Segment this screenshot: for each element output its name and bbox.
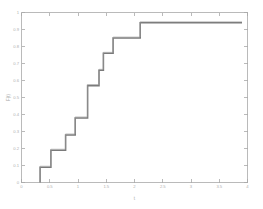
x-tick-label: 1.5 xyxy=(103,184,109,189)
x-tick-label: 3.5 xyxy=(216,184,222,189)
x-tick-label: 0 xyxy=(20,184,23,189)
y-tick-label: 0.1 xyxy=(13,163,19,168)
ecdf-step-curve xyxy=(40,22,242,183)
ecdf-step-plot: 0 0.5 1 1.5 2 2.5 3 3.5 4 0 0.1 0.2 0.3 … xyxy=(0,0,263,209)
y-tick-label: 0.8 xyxy=(13,44,19,49)
y-tick-label: 0.4 xyxy=(13,112,19,117)
x-tick-label: 0.5 xyxy=(47,184,53,189)
y-tick-label: 1 xyxy=(17,10,20,15)
x-tick-label: 3 xyxy=(190,184,193,189)
x-tick-label: 2.5 xyxy=(160,184,166,189)
y-axis-title: F(t) xyxy=(6,93,11,101)
x-tick-label: 2 xyxy=(133,184,136,189)
y-tick-label: 0.7 xyxy=(13,61,19,66)
y-tick-label: 0.6 xyxy=(13,78,19,83)
y-tick-label: 0.2 xyxy=(13,146,19,151)
y-axis-tick-labels: 0 0.1 0.2 0.3 0.4 0.5 0.6 0.7 0.8 0.9 1 xyxy=(13,10,19,185)
chart-figure: 0 0.5 1 1.5 2 2.5 3 3.5 4 0 0.1 0.2 0.3 … xyxy=(0,0,263,209)
x-tick-label: 1 xyxy=(77,184,80,189)
x-axis-tick-labels: 0 0.5 1 1.5 2 2.5 3 3.5 4 xyxy=(20,184,249,189)
y-tick-label: 0.5 xyxy=(13,95,19,100)
x-tick-label: 4 xyxy=(246,184,249,189)
y-tick-label: 0.9 xyxy=(13,27,19,32)
y-tick-label: 0.3 xyxy=(13,129,19,134)
x-axis-title: t xyxy=(134,196,136,201)
